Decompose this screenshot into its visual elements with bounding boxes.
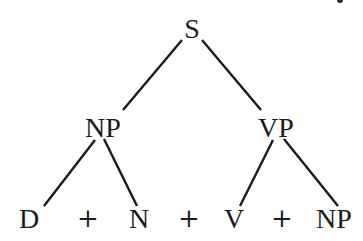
syntax-tree-diagram: S NP VP D + N + V + NP [0, 0, 363, 241]
edge-s-to-vp [202, 40, 261, 110]
plus-sign: + [77, 203, 99, 233]
plus-sign: + [271, 203, 293, 233]
edge-np-to-n [104, 139, 137, 206]
leaf-v: V [224, 203, 244, 234]
plus-sign: + [178, 203, 200, 233]
leaf-row: D + N + V + NP [19, 203, 352, 234]
leaf-d: D [19, 203, 39, 234]
edge-s-to-np [123, 40, 182, 110]
edge-vp-to-np [284, 139, 338, 206]
node-np: NP [85, 112, 121, 143]
edge-vp-to-v [240, 140, 273, 206]
edge-np-to-d [44, 140, 95, 206]
node-vp: VP [258, 112, 294, 143]
node-s: S [184, 13, 200, 44]
leaf-np: NP [316, 203, 352, 234]
leaf-n: N [129, 203, 149, 234]
